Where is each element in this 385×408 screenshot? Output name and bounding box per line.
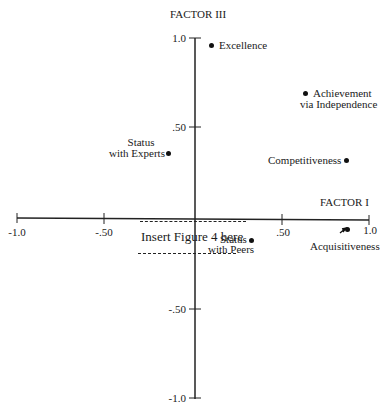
point-label: via Independence [300,98,377,110]
point-acquisitiveness [345,227,350,232]
y-tick-label: -1.0 [156,392,186,404]
point-status-experts [166,151,171,156]
point-label: Acquisitiveness [310,240,380,252]
x-tick-label: 1.0 [355,224,385,236]
point-label: with Experts [109,147,165,159]
point-competitiveness [344,158,349,163]
y-axis-title: FACTOR III [170,8,226,20]
y-tick-label: 1.0 [156,32,186,44]
point-label: with Peers [208,243,254,255]
placeholder-top-rule [140,221,246,222]
x-tick-label: -.50 [89,226,119,238]
x-tick-label: .50 [268,226,298,238]
point-excellence [209,43,214,48]
point-label: Excellence [219,39,267,51]
point-label: Competitiveness [268,154,341,166]
y-tick-label: -.50 [156,303,186,315]
point-achievement [303,91,308,96]
y-tick-label: .50 [156,121,186,133]
x-tick-label: -1.0 [2,226,32,238]
x-axis-title: FACTOR I [320,196,369,208]
